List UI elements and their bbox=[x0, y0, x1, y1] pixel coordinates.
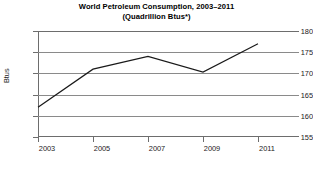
series-layer bbox=[0, 0, 313, 179]
data-line-world-petroleum-consumption bbox=[38, 44, 258, 108]
line-chart: World Petroleum Consumption, 2003–2011 (… bbox=[0, 0, 313, 179]
